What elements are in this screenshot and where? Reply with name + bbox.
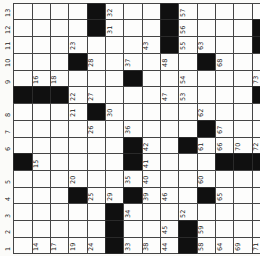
crossword-cell[interactable]: [142, 86, 160, 103]
crossword-cell[interactable]: [178, 120, 196, 137]
crossword-cell[interactable]: [142, 70, 160, 87]
crossword-cell[interactable]: [142, 19, 160, 36]
crossword-cell[interactable]: [68, 70, 86, 87]
crossword-cell[interactable]: [105, 153, 123, 170]
crossword-cell[interactable]: [178, 187, 196, 204]
crossword-cell[interactable]: [178, 153, 196, 170]
crossword-cell[interactable]: [215, 3, 233, 20]
crossword-cell[interactable]: [68, 3, 86, 20]
crossword-cell[interactable]: [215, 203, 233, 220]
crossword-cell[interactable]: [68, 203, 86, 220]
crossword-cell[interactable]: [215, 70, 233, 87]
crossword-cell[interactable]: [87, 70, 105, 87]
crossword-cell[interactable]: [215, 19, 233, 36]
crossword-cell[interactable]: [142, 103, 160, 120]
crossword-cell[interactable]: [105, 36, 123, 53]
crossword-cell[interactable]: [123, 86, 141, 103]
crossword-cell[interactable]: [87, 137, 105, 154]
crossword-cell[interactable]: [252, 120, 260, 137]
crossword-cell[interactable]: [178, 170, 196, 187]
crossword-cell[interactable]: [32, 203, 50, 220]
crossword-cell[interactable]: [50, 187, 68, 204]
crossword-cell[interactable]: [215, 220, 233, 237]
crossword-cell[interactable]: [13, 53, 31, 70]
crossword-cell[interactable]: [68, 19, 86, 36]
crossword-cell[interactable]: [233, 53, 251, 70]
crossword-cell[interactable]: [252, 170, 260, 187]
crossword-cell[interactable]: [50, 3, 68, 20]
crossword-cell[interactable]: [233, 70, 251, 87]
crossword-cell[interactable]: [123, 103, 141, 120]
crossword-cell[interactable]: [178, 53, 196, 70]
crossword-cell[interactable]: [87, 220, 105, 237]
crossword-cell[interactable]: [32, 137, 50, 154]
crossword-cell[interactable]: [142, 203, 160, 220]
crossword-cell[interactable]: [87, 170, 105, 187]
crossword-cell[interactable]: [32, 36, 50, 53]
crossword-cell[interactable]: [160, 170, 178, 187]
crossword-cell[interactable]: [233, 170, 251, 187]
crossword-cell[interactable]: [32, 220, 50, 237]
crossword-cell[interactable]: [160, 120, 178, 137]
crossword-cell[interactable]: [197, 3, 215, 20]
crossword-cell[interactable]: [13, 137, 31, 154]
crossword-cell[interactable]: [197, 153, 215, 170]
crossword-cell[interactable]: [105, 53, 123, 70]
crossword-cell[interactable]: [32, 120, 50, 137]
crossword-cell[interactable]: [160, 103, 178, 120]
crossword-cell[interactable]: [13, 19, 31, 36]
crossword-cell[interactable]: [233, 203, 251, 220]
crossword-cell[interactable]: [68, 120, 86, 137]
crossword-cell[interactable]: [233, 3, 251, 20]
crossword-cell[interactable]: [233, 187, 251, 204]
crossword-cell[interactable]: [215, 103, 233, 120]
crossword-cell[interactable]: [123, 220, 141, 237]
crossword-cell[interactable]: [13, 203, 31, 220]
crossword-cell[interactable]: [87, 203, 105, 220]
crossword-cell[interactable]: [13, 36, 31, 53]
crossword-cell[interactable]: [252, 103, 260, 120]
crossword-cell[interactable]: [233, 103, 251, 120]
crossword-cell[interactable]: [215, 170, 233, 187]
crossword-cell[interactable]: [233, 120, 251, 137]
crossword-cell[interactable]: [13, 187, 31, 204]
crossword-cell[interactable]: [32, 3, 50, 20]
crossword-cell[interactable]: [87, 153, 105, 170]
crossword-cell[interactable]: [13, 3, 31, 20]
crossword-cell[interactable]: [87, 36, 105, 53]
crossword-cell[interactable]: [142, 120, 160, 137]
crossword-cell[interactable]: [123, 19, 141, 36]
crossword-cell[interactable]: [160, 153, 178, 170]
crossword-cell[interactable]: [68, 220, 86, 237]
crossword-cell[interactable]: [32, 103, 50, 120]
crossword-cell[interactable]: [233, 86, 251, 103]
crossword-cell[interactable]: [50, 19, 68, 36]
crossword-cell[interactable]: [178, 103, 196, 120]
crossword-cell[interactable]: [50, 120, 68, 137]
crossword-cell[interactable]: [197, 86, 215, 103]
crossword-cell[interactable]: [13, 103, 31, 120]
crossword-cell[interactable]: [160, 137, 178, 154]
crossword-cell[interactable]: [123, 36, 141, 53]
crossword-cell[interactable]: [160, 70, 178, 87]
crossword-cell[interactable]: [215, 36, 233, 53]
crossword-cell[interactable]: [233, 36, 251, 53]
crossword-cell[interactable]: [233, 220, 251, 237]
crossword-cell[interactable]: [252, 203, 260, 220]
crossword-cell[interactable]: [105, 170, 123, 187]
crossword-cell[interactable]: [252, 53, 260, 70]
crossword-cell[interactable]: [50, 203, 68, 220]
crossword-cell[interactable]: [252, 220, 260, 237]
crossword-cell[interactable]: [252, 3, 260, 20]
crossword-cell[interactable]: [105, 70, 123, 87]
crossword-cell[interactable]: [105, 137, 123, 154]
crossword-cell[interactable]: [197, 19, 215, 36]
crossword-cell[interactable]: [68, 153, 86, 170]
crossword-cell[interactable]: [160, 203, 178, 220]
crossword-cell[interactable]: [197, 203, 215, 220]
crossword-cell[interactable]: [105, 120, 123, 137]
crossword-cell[interactable]: [32, 187, 50, 204]
crossword-cell[interactable]: [13, 120, 31, 137]
crossword-cell[interactable]: [13, 220, 31, 237]
crossword-cell[interactable]: [50, 153, 68, 170]
